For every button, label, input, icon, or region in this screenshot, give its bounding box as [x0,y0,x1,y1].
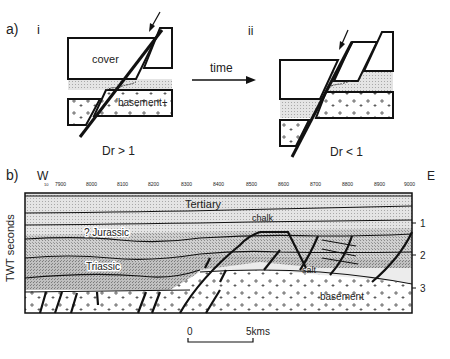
east-label: E [427,169,435,183]
triassic-label: Triassic [86,261,120,272]
panel-a-sub-i: i [37,22,40,37]
x-tick: 8000 [86,181,97,187]
x-tick: 8100 [117,181,128,187]
panel-b: b) W E 10 7900 8000 8100 8200 8300 8400 … [4,167,435,342]
x-tick: 8700 [310,181,321,187]
x-tick-prefix: 10 [44,182,49,187]
panel-a-sub-ii: ii [248,24,253,38]
scale-bar: 0 5kms [187,326,270,342]
tertiary-label: Tertiary [185,198,222,210]
time-label: time [210,61,233,75]
x-tick: 8400 [213,181,224,187]
x-tick: 8300 [181,181,192,187]
basement-label: 'basement+ [116,97,168,108]
sketch-ii: Dr < 1 [280,30,393,159]
scale-start: 0 [187,326,193,337]
x-tick: 8200 [148,181,159,187]
y-axis-right: 1 2 3 [412,218,426,294]
west-label: W [37,169,49,183]
jurassic-label: ? Jurassic [84,227,129,238]
x-tick: 8600 [278,181,289,187]
arrow-right-icon [246,76,256,84]
scale-line [188,338,253,342]
x-tick: 8900 [374,181,385,187]
arrow-head-icon [339,41,345,50]
caption-i: Dr > 1 [102,144,135,158]
panel-b-label: b) [6,167,18,183]
y-tick-label: 2 [420,250,426,261]
caption-ii: Dr < 1 [330,145,363,159]
arrow-head-icon [149,23,155,32]
x-tick: 9000 [404,181,415,187]
basement-label: basement [320,291,364,302]
cover-label: cover [92,53,119,65]
panel-a: a) i cover 'basement+ Dr > 1 time [6,12,393,159]
y-tick-label: 3 [420,283,426,294]
y-axis-label: TWT seconds [4,214,16,282]
y-tick-label: 1 [420,218,426,229]
x-tick: 7900 [55,181,66,187]
basement-block-right [316,92,393,118]
x-tick: 8800 [342,181,353,187]
chalk-label: chalk [252,213,274,223]
time-arrow: time [192,61,256,84]
x-tick: 8500 [246,181,257,187]
x-tick-labels: 10 7900 8000 8100 8200 8300 8400 8500 86… [44,181,415,187]
sketch-i: cover 'basement+ Dr > 1 [68,12,172,158]
diagram-canvas: a) i cover 'basement+ Dr > 1 time [0,0,450,359]
scale-end: 5kms [246,326,270,337]
salt-label: salt [302,265,317,275]
panel-a-label: a) [6,21,18,37]
